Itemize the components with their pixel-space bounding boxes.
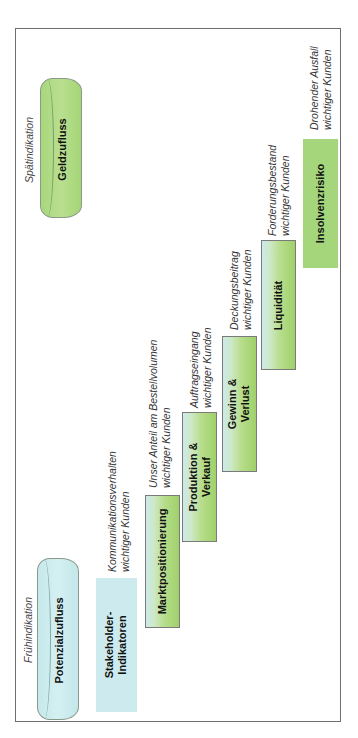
note-drohender-ausfall: Drohender Ausfall wichtiger Kunden (306, 32, 336, 132)
step-liquiditaet: Liquidität (261, 240, 296, 370)
step-label-line: Produktion & (187, 442, 200, 511)
note-line: wichtiger Kunden (279, 136, 292, 236)
step-label-line: Marktpositionierung (156, 509, 169, 615)
step-insolvenzrisiko: Insolvenzrisiko (303, 139, 338, 268)
geldzufluss-label: Geldzufluss (56, 118, 69, 180)
geldzufluss-label-wrap: Geldzufluss (41, 79, 83, 219)
step-label: Gewinn & Verlust (227, 379, 253, 430)
note-line: wichtiger Kunden (160, 338, 173, 488)
step-label: Stakeholder- Indikatoren (104, 612, 130, 679)
note-text: Drohender Ausfall wichtiger Kunden (308, 30, 334, 130)
note-line: Forderungsbestand (266, 136, 279, 236)
step-label-line: Stakeholder- (104, 612, 117, 679)
potenzialzufluss-label: Potenzialzufluss (53, 597, 66, 683)
note-line: Kommunikationsverhalten (106, 438, 119, 572)
step-label: Marktpositionierung (156, 509, 169, 615)
potenzialzufluss-label-wrap: Potenzialzufluss (38, 559, 80, 721)
step-stakeholder-indikatoren: Stakeholder- Indikatoren (96, 578, 137, 712)
step-gewinn-verlust: Gewinn & Verlust (222, 336, 257, 472)
step-label-line: Liquidität (272, 280, 285, 330)
note-line: wichtiger Kunden (201, 318, 214, 408)
late-indication-label: Spätindikation (21, 95, 37, 205)
note-text: Deckungsbeitrag wichtiger Kunden (228, 240, 254, 330)
note-line: wichtiger Kunden (119, 438, 132, 572)
note-line: Deckungsbeitrag (228, 240, 241, 330)
note-line: Drohender Ausfall (308, 30, 321, 130)
note-auftragseingang: Auftragseingang wichtiger Kunden (186, 320, 216, 410)
note-line: wichtiger Kunden (241, 240, 254, 330)
step-label-line: Indikatoren (117, 612, 130, 679)
note-line: Unser Anteil am Bestellvolumen (147, 338, 160, 488)
early-indication-label: Frühindikation (20, 570, 36, 690)
note-text: Forderungsbestand wichtiger Kunden (266, 136, 292, 236)
note-line: Auftragseingang (188, 318, 201, 408)
note-text: Unser Anteil am Bestellvolumen wichtiger… (147, 338, 173, 488)
note-line: wichtiger Kunden (321, 30, 334, 130)
note-text: Kommunikationsverhalten wichtiger Kunden (106, 438, 132, 572)
step-label-line: Verlust (240, 379, 253, 430)
step-label: Liquidität (272, 280, 285, 330)
step-label: Insolvenzrisiko (314, 164, 327, 243)
step-label-line: Insolvenzrisiko (314, 164, 327, 243)
step-marktpositionierung: Marktpositionierung (145, 495, 180, 628)
early-indication-text: Frühindikation (22, 597, 34, 663)
late-indication-text: Spätindikation (23, 117, 35, 183)
step-label-line: Gewinn & (227, 379, 240, 430)
step-label: Produktion & Verkauf (187, 442, 213, 511)
potenzialzufluss-cylinder: Potenzialzufluss (37, 558, 79, 720)
note-forderungsbestand: Forderungsbestand wichtiger Kunden (264, 138, 294, 238)
step-label-line: Verkauf (200, 442, 213, 511)
note-bestellvolumen: Unser Anteil am Bestellvolumen wichtiger… (145, 340, 175, 490)
geldzufluss-cylinder: Geldzufluss (40, 78, 82, 218)
note-text: Auftragseingang wichtiger Kunden (188, 318, 214, 408)
note-deckungsbeitrag: Deckungsbeitrag wichtiger Kunden (226, 242, 256, 332)
step-produktion-verkauf: Produktion & Verkauf (182, 412, 217, 542)
note-kommunikationsverhalten: Kommunikationsverhalten wichtiger Kunden (104, 440, 134, 575)
